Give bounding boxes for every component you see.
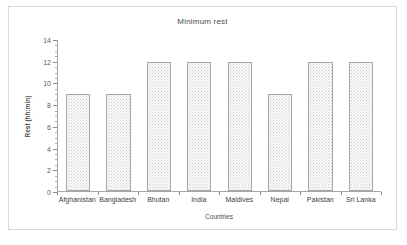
- y-axis-minor-tick: [55, 187, 57, 188]
- bar[interactable]: [106, 94, 130, 191]
- bar-slot: [98, 40, 138, 191]
- bar[interactable]: [228, 62, 252, 191]
- y-axis-minor-tick: [55, 138, 57, 139]
- bar[interactable]: [268, 94, 292, 191]
- y-axis-minor-tick: [55, 111, 57, 112]
- x-axis-tick: [98, 192, 99, 195]
- y-axis-minor-tick: [55, 176, 57, 177]
- y-axis-minor-tick: [55, 159, 57, 160]
- y-axis-minor-tick: [55, 181, 57, 182]
- chart-title: Minimum rest: [9, 17, 396, 26]
- bar-slot: [220, 40, 260, 191]
- x-axis-tick: [341, 192, 342, 195]
- y-axis-tick-label: 8: [47, 102, 51, 109]
- bar[interactable]: [187, 62, 211, 191]
- y-axis-tick: [53, 105, 57, 106]
- y-axis-tick: [53, 127, 57, 128]
- bar-slot: [58, 40, 98, 191]
- y-axis-title: Rest (hh:min): [23, 40, 33, 192]
- y-axis-tick: [53, 62, 57, 63]
- y-axis-minor-tick: [55, 45, 57, 46]
- y-axis-tick-label: 2: [47, 167, 51, 174]
- x-axis-tick: [219, 192, 220, 195]
- x-axis-tick-label: Bangladesh: [99, 196, 136, 203]
- y-axis-minor-tick: [55, 165, 57, 166]
- x-axis-tick-label: Pakistan: [307, 196, 334, 203]
- y-axis-minor-tick: [55, 67, 57, 68]
- x-axis-title: Countries: [57, 213, 381, 220]
- bar-slot: [300, 40, 340, 191]
- x-axis-tick-label: Bhutan: [147, 196, 169, 203]
- x-axis-tick-label: Nepal: [271, 196, 289, 203]
- x-axis-tick-label: Maldives: [225, 196, 253, 203]
- y-axis-tick-label: 10: [43, 80, 51, 87]
- y-axis-minor-tick: [55, 143, 57, 144]
- bar[interactable]: [308, 62, 332, 191]
- chart-figure: Minimum rest Rest (hh:min) 02468101214 A…: [8, 6, 397, 230]
- y-axis-tick: [53, 40, 57, 41]
- x-axis-tick: [138, 192, 139, 195]
- x-axis-tick: [57, 192, 58, 195]
- x-axis-tick-label: Afghanistan: [59, 196, 96, 203]
- x-axis-tick: [260, 192, 261, 195]
- y-axis-minor-tick: [55, 100, 57, 101]
- y-axis-tick: [53, 170, 57, 171]
- y-axis-title-label: Rest (hh:min): [25, 95, 32, 137]
- x-axis-tick-label: Sri Lanka: [346, 196, 376, 203]
- y-axis-minor-tick: [55, 154, 57, 155]
- y-axis-minor-tick: [55, 73, 57, 74]
- bar-slot: [179, 40, 219, 191]
- x-axis-tick-label: India: [191, 196, 206, 203]
- y-axis-tick-label: 0: [47, 189, 51, 196]
- y-axis-minor-tick: [55, 89, 57, 90]
- y-axis-tick-label: 12: [43, 58, 51, 65]
- y-axis-tick-label: 14: [43, 37, 51, 44]
- y-axis-tick-label: 6: [47, 123, 51, 130]
- bar[interactable]: [66, 94, 90, 191]
- bar-slot: [139, 40, 179, 191]
- bar[interactable]: [147, 62, 171, 191]
- x-axis-tick: [381, 192, 382, 195]
- bar-slot: [260, 40, 300, 191]
- plot-area: 02468101214 AfghanistanBangladeshBhutanI…: [57, 40, 381, 192]
- bar[interactable]: [349, 62, 373, 191]
- y-axis-tick-label: 4: [47, 145, 51, 152]
- bar-series: [58, 40, 381, 191]
- y-axis-minor-tick: [55, 78, 57, 79]
- y-axis-minor-tick: [55, 116, 57, 117]
- y-axis-minor-tick: [55, 56, 57, 57]
- y-axis-minor-tick: [55, 51, 57, 52]
- y-axis-minor-tick: [55, 132, 57, 133]
- y-axis-tick: [53, 149, 57, 150]
- y-axis-tick: [53, 83, 57, 84]
- x-axis-tick: [179, 192, 180, 195]
- x-axis-tick: [300, 192, 301, 195]
- y-axis-minor-tick: [55, 94, 57, 95]
- y-axis-minor-tick: [55, 121, 57, 122]
- bar-slot: [341, 40, 381, 191]
